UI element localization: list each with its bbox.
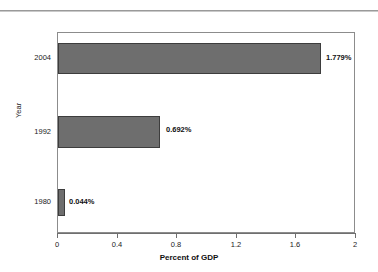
bar-value-label-1992: 0.692% <box>166 125 191 134</box>
x-axis-title: Percent of GDP <box>0 253 378 262</box>
bar-2004[interactable] <box>58 43 321 74</box>
bar-value-label-1980: 0.044% <box>69 197 94 206</box>
x-axis-tick-0 <box>57 234 58 238</box>
y-axis-category-label-1992: 1992 <box>25 127 51 136</box>
x-axis-tick-label-0.8: 0.8 <box>171 240 181 249</box>
x-axis-tick-label-0: 0 <box>55 240 59 249</box>
y-axis-title: Year <box>14 103 23 118</box>
x-axis-tick-label-2: 2 <box>353 240 357 249</box>
bar-value-label-2004: 1.779% <box>326 53 351 62</box>
bar-chart: Year 2004 1992 1980 1.779% 0.692% 0.044%… <box>0 0 378 272</box>
x-axis-tick-label-1.6: 1.6 <box>290 240 300 249</box>
x-axis-tick-0.4 <box>117 234 118 238</box>
x-axis-tick-label-1.2: 1.2 <box>231 240 241 249</box>
x-axis-tick-1.2 <box>236 234 237 238</box>
x-axis-tick-1.6 <box>295 234 296 238</box>
x-axis-tick-0.8 <box>176 234 177 238</box>
y-axis-category-label-1980: 1980 <box>25 197 51 206</box>
y-axis-category-label-2004: 2004 <box>25 53 51 62</box>
x-axis-tick-2 <box>355 234 356 238</box>
plot-area <box>57 32 355 233</box>
x-axis-tick-label-0.4: 0.4 <box>112 240 122 249</box>
bar-1980[interactable] <box>58 189 65 216</box>
bar-1992[interactable] <box>58 116 160 148</box>
x-axis-line <box>57 233 356 234</box>
